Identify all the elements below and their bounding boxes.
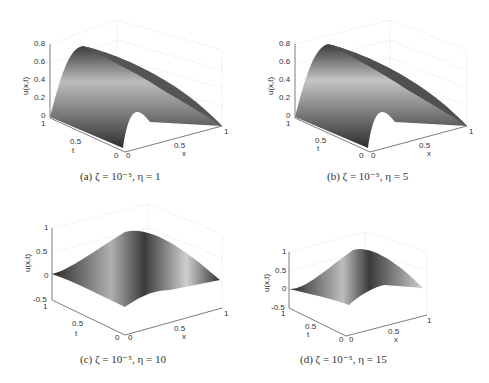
- svg-text:1: 1: [41, 119, 46, 128]
- svg-text:0.6: 0.6: [34, 57, 46, 66]
- panel-d: 1 0.5 0 -0.5 1 0.5 0 0 0.5 1 t x u(x,t) …: [245, 190, 489, 383]
- panel-c: 1 0.5 0 -0.5 1 0.5 0 0 0.5 1 t x u(x,t) …: [0, 190, 245, 383]
- svg-text:0: 0: [126, 151, 131, 160]
- caption-math: ζ = 10⁻⁵, η = 10: [95, 353, 166, 365]
- svg-text:0: 0: [282, 284, 287, 293]
- svg-text:x: x: [182, 149, 186, 158]
- caption-math: ζ = 10⁻⁵, η = 1: [95, 170, 161, 182]
- svg-text:u(x,t): u(x,t): [262, 273, 271, 292]
- svg-text:0.2: 0.2: [279, 93, 291, 102]
- svg-text:0: 0: [359, 151, 364, 160]
- svg-text:0.5: 0.5: [36, 247, 48, 256]
- svg-text:1: 1: [282, 247, 287, 256]
- svg-text:x: x: [427, 149, 431, 158]
- svg-text:0: 0: [114, 151, 119, 160]
- svg-text:1: 1: [281, 309, 286, 318]
- svg-text:t: t: [317, 144, 320, 153]
- svg-text:0: 0: [339, 335, 344, 344]
- svg-text:0.2: 0.2: [34, 93, 46, 102]
- svg-text:t: t: [307, 330, 310, 339]
- svg-text:1: 1: [427, 316, 432, 325]
- caption-label: (d): [300, 353, 313, 365]
- svg-text:u(x,t): u(x,t): [266, 76, 275, 95]
- svg-text:0: 0: [349, 335, 354, 344]
- svg-text:0.5: 0.5: [72, 319, 84, 328]
- svg-text:0.5: 0.5: [70, 137, 82, 146]
- caption-c: (c) ζ = 10⁻⁵, η = 10: [80, 353, 166, 366]
- svg-text:x: x: [182, 332, 186, 341]
- svg-text:0.4: 0.4: [279, 75, 291, 84]
- svg-text:1: 1: [469, 127, 474, 136]
- caption-d: (d) ζ = 10⁻⁵, η = 15: [300, 353, 387, 366]
- surface-plot-a: 0.8 0.6 0.4 0.2 0 1 0.5 0 0 0.5 1 t x u(…: [0, 0, 245, 190]
- svg-text:0.6: 0.6: [279, 57, 291, 66]
- svg-text:t: t: [72, 146, 75, 155]
- caption-math: ζ = 10⁻⁵, η = 5: [343, 170, 409, 182]
- svg-text:1: 1: [286, 119, 291, 128]
- surface-plot-b: 0.8 0.6 0.4 0.2 0 1 0.5 0 0 0.5 1 t x u(…: [245, 0, 489, 190]
- caption-label: (c): [80, 353, 92, 365]
- caption-label: (b): [327, 170, 340, 182]
- svg-text:0: 0: [115, 333, 120, 342]
- svg-text:1: 1: [224, 127, 229, 136]
- svg-text:t: t: [75, 329, 78, 338]
- svg-text:0.8: 0.8: [279, 39, 291, 48]
- svg-text:0: 0: [44, 271, 49, 280]
- caption-b: (b) ζ = 10⁻⁵, η = 5: [327, 170, 408, 183]
- svg-text:x: x: [394, 335, 398, 344]
- svg-text:1: 1: [224, 309, 229, 318]
- svg-text:0.5: 0.5: [275, 266, 287, 275]
- svg-text:0: 0: [128, 333, 133, 342]
- svg-text:1: 1: [44, 223, 49, 232]
- svg-text:0.8: 0.8: [34, 39, 46, 48]
- svg-text:1: 1: [43, 302, 48, 311]
- panel-b: 0.8 0.6 0.4 0.2 0 1 0.5 0 0 0.5 1 t x u(…: [245, 0, 489, 190]
- caption-a: (a) ζ = 10⁻⁵, η = 1: [80, 170, 161, 183]
- caption-math: ζ = 10⁻⁵, η = 15: [316, 353, 387, 365]
- svg-text:0: 0: [371, 151, 376, 160]
- caption-label: (a): [80, 170, 92, 182]
- svg-text:u(x,t): u(x,t): [21, 76, 30, 95]
- svg-text:0.4: 0.4: [34, 75, 46, 84]
- svg-text:u(x,t): u(x,t): [23, 253, 32, 272]
- panel-a: 0.8 0.6 0.4 0.2 0 1 0.5 0 0 0.5 1 t x u(…: [0, 0, 245, 190]
